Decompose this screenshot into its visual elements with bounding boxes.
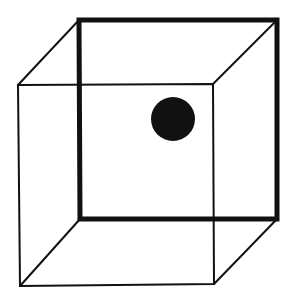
connecting-edge <box>18 20 79 85</box>
cube-figure <box>0 0 296 305</box>
connecting-edge <box>20 219 80 286</box>
connecting-edges <box>18 20 277 286</box>
cube-diagram <box>0 0 296 305</box>
connecting-edge <box>214 219 277 284</box>
connecting-edge <box>213 20 277 84</box>
black-dot <box>151 97 195 141</box>
